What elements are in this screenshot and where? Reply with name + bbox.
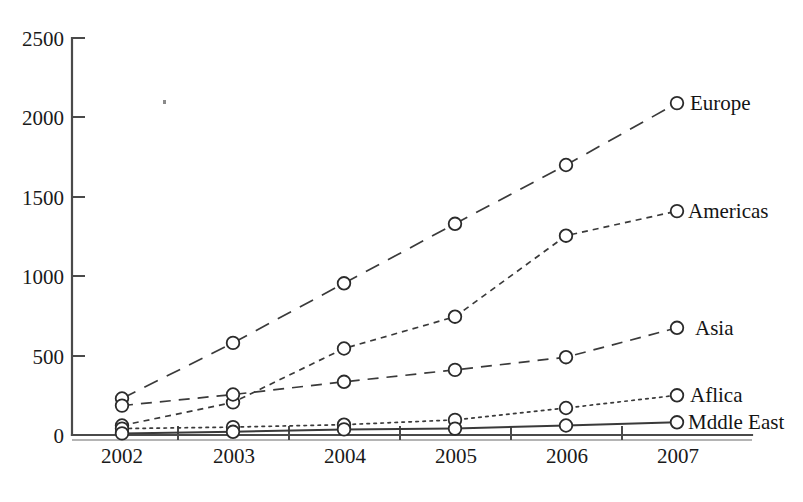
data-point-americas-2006[interactable] bbox=[560, 229, 573, 242]
data-point-mddle-east-2007[interactable] bbox=[671, 416, 684, 429]
series-label-mddle-east: Mddle East bbox=[688, 410, 784, 434]
data-point-mddle-east-2004[interactable] bbox=[338, 423, 351, 436]
line-chart: 2500 2000 1500 1000 500 0 2002 2003 2004… bbox=[0, 0, 803, 502]
y-tick-label-2000: 2000 bbox=[22, 106, 64, 130]
y-tick-label-500: 500 bbox=[33, 345, 65, 369]
data-point-mddle-east-2006[interactable] bbox=[560, 419, 573, 432]
x-tick-label-2003: 2003 bbox=[213, 444, 255, 468]
x-tick-label-2005: 2005 bbox=[435, 444, 477, 468]
data-point-mddle-east-2005[interactable] bbox=[449, 422, 462, 435]
series-label-asia: Asia bbox=[695, 316, 734, 340]
y-tick-marks bbox=[72, 38, 85, 356]
series-labels: EuropeAmericasAsiaAflicaMddle East bbox=[688, 91, 784, 434]
y-tick-label-0: 0 bbox=[54, 424, 65, 448]
plot-area bbox=[116, 97, 684, 440]
data-point-mddle-east-2002[interactable] bbox=[116, 427, 129, 440]
x-tick-label-2004: 2004 bbox=[324, 444, 367, 468]
data-point-asia-2007[interactable] bbox=[671, 322, 684, 335]
data-point-asia-2005[interactable] bbox=[449, 364, 462, 377]
data-point-europe-2006[interactable] bbox=[560, 159, 573, 172]
data-point-asia-2003[interactable] bbox=[227, 388, 240, 401]
data-point-europe-2005[interactable] bbox=[449, 218, 462, 231]
data-point-europe-2007[interactable] bbox=[671, 97, 684, 110]
y-tick-label-2500: 2500 bbox=[22, 27, 64, 51]
series-label-americas: Americas bbox=[688, 199, 768, 223]
data-point-europe-2004[interactable] bbox=[338, 277, 351, 290]
x-tick-label-2002: 2002 bbox=[101, 444, 143, 468]
series-line-europe bbox=[122, 103, 677, 398]
series-line-asia bbox=[122, 328, 677, 406]
data-point-asia-2006[interactable] bbox=[560, 351, 573, 364]
series-label-europe: Europe bbox=[690, 91, 751, 115]
y-tick-label-1000: 1000 bbox=[22, 265, 64, 289]
series-line-aflica bbox=[122, 395, 677, 428]
data-point-mddle-east-2003[interactable] bbox=[227, 426, 240, 439]
data-point-aflica-2007[interactable] bbox=[671, 389, 684, 402]
data-point-americas-2005[interactable] bbox=[449, 310, 462, 323]
series-line-americas bbox=[122, 211, 677, 425]
data-point-asia-2002[interactable] bbox=[116, 399, 129, 412]
data-point-aflica-2006[interactable] bbox=[560, 402, 573, 415]
data-point-americas-2004[interactable] bbox=[338, 342, 351, 355]
scan-speck bbox=[163, 100, 166, 104]
chart-page: 2500 2000 1500 1000 500 0 2002 2003 2004… bbox=[0, 0, 803, 502]
data-point-asia-2004[interactable] bbox=[338, 376, 351, 389]
y-tick-label-1500: 1500 bbox=[22, 186, 64, 210]
series-label-aflica: Aflica bbox=[690, 383, 743, 407]
data-point-americas-2007[interactable] bbox=[671, 205, 684, 218]
x-tick-label-2007: 2007 bbox=[657, 444, 699, 468]
data-point-europe-2003[interactable] bbox=[227, 337, 240, 350]
x-tick-label-2006: 2006 bbox=[546, 444, 588, 468]
